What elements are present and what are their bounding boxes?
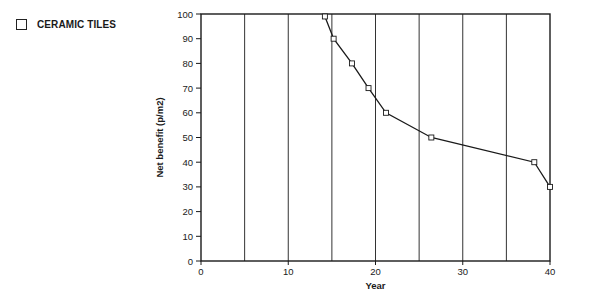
y-tick-label: 80 xyxy=(182,58,193,69)
data-point-marker xyxy=(383,110,388,115)
data-line xyxy=(325,16,550,186)
y-tick-label: 60 xyxy=(182,107,193,118)
x-tick-label: 20 xyxy=(370,266,381,277)
y-tick-label: 10 xyxy=(182,231,193,242)
data-point-marker xyxy=(331,36,336,41)
y-tick-label: 30 xyxy=(182,181,193,192)
data-point-marker xyxy=(532,160,537,165)
x-tick-label: 30 xyxy=(457,266,468,277)
x-axis-title: Year xyxy=(365,280,385,291)
line-chart: 0102030405060708090100010203040YearNet b… xyxy=(0,0,589,300)
y-tick-label: 90 xyxy=(182,33,193,44)
y-tick-label: 100 xyxy=(177,9,193,20)
y-tick-label: 20 xyxy=(182,206,193,217)
y-tick-label: 0 xyxy=(188,256,193,267)
y-tick-label: 70 xyxy=(182,83,193,94)
data-point-marker xyxy=(548,184,553,189)
y-tick-label: 40 xyxy=(182,157,193,168)
data-point-marker xyxy=(429,135,434,140)
data-point-marker xyxy=(366,86,371,91)
y-tick-label: 50 xyxy=(182,132,193,143)
data-point-marker xyxy=(322,14,327,19)
x-tick-label: 40 xyxy=(545,266,556,277)
data-point-marker xyxy=(349,61,354,66)
x-tick-label: 0 xyxy=(198,266,203,277)
y-axis-title: Net benefit (p/m2) xyxy=(154,97,165,177)
x-tick-label: 10 xyxy=(283,266,294,277)
